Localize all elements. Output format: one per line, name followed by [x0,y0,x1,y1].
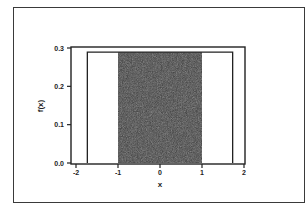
x-tick-label: -1 [115,169,121,176]
x-tick-label: -2 [73,169,79,176]
y-axis: 0.00.10.20.3 [54,45,71,167]
x-tick-label: 2 [242,169,246,176]
x-axis-label: x [158,180,163,189]
y-tick-label: 0.0 [54,160,64,167]
x-tick-label: 1 [200,169,204,176]
shaded-area [118,52,202,163]
y-tick-label: 0.2 [54,83,64,90]
x-axis: -2-1012 [73,164,246,176]
y-tick-label: 0.3 [54,45,64,52]
x-tick-label: 0 [158,169,162,176]
y-axis-label: f(x) [36,99,45,112]
y-tick-label: 0.1 [54,121,64,128]
series-layer [87,52,232,163]
density-chart: 0.00.10.20.3 -2-1012 x f(x) [0,0,308,209]
